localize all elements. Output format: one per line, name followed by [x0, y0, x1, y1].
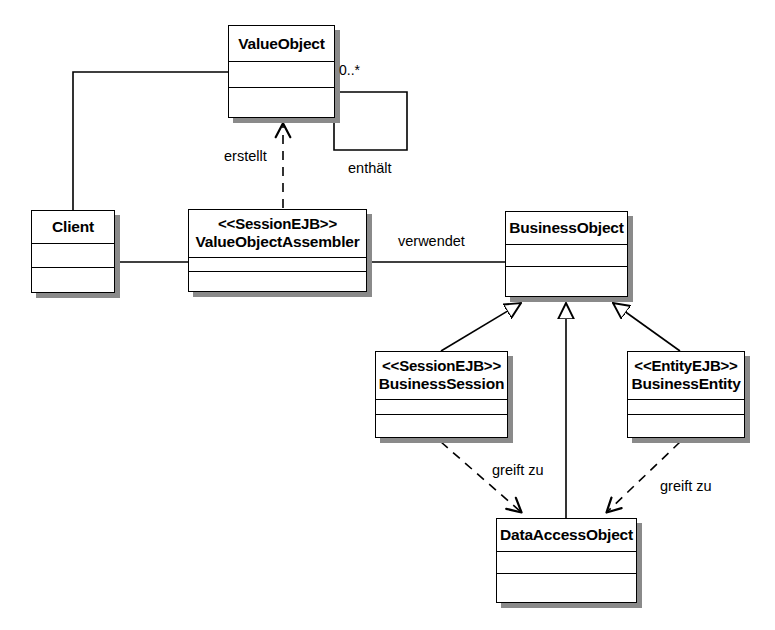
- class-box-value-object-assembler[interactable]: <<SessionEJB>> ValueObjectAssembler: [188, 209, 367, 292]
- class-attributes-business-object: [506, 245, 627, 267]
- class-name-business-object: BusinessObject: [509, 219, 623, 236]
- class-box-value-object[interactable]: ValueObject: [228, 25, 335, 118]
- class-attributes-business-entity: [628, 400, 744, 415]
- class-stereotype-business-session: <<SessionEJB>>: [382, 358, 501, 375]
- class-box-business-entity[interactable]: <<EntityEJB>> BusinessEntity: [627, 351, 745, 438]
- class-attributes-client: [32, 244, 114, 268]
- class-box-business-object[interactable]: BusinessObject: [505, 211, 628, 297]
- class-attributes-value-object: [229, 62, 334, 88]
- edge-business-entity-generalization: [613, 303, 680, 351]
- class-name-business-entity: BusinessEntity: [631, 375, 740, 392]
- class-operations-data-access-object: [497, 574, 636, 601]
- multiplicity-value-object: 0..*: [339, 62, 360, 78]
- uml-class-diagram: ValueObject Client <<SessionEJB>> ValueO…: [0, 0, 775, 630]
- class-header-business-session: <<SessionEJB>> BusinessSession: [376, 352, 507, 400]
- class-header-value-object-assembler: <<SessionEJB>> ValueObjectAssembler: [189, 210, 366, 258]
- class-header-value-object: ValueObject: [229, 26, 334, 62]
- class-operations-value-object: [229, 88, 334, 117]
- class-header-business-entity: <<EntityEJB>> BusinessEntity: [628, 352, 744, 400]
- class-operations-value-object-assembler: [189, 272, 366, 290]
- edge-client-to-value-object: [73, 72, 228, 210]
- edge-value-object-self-contains: [334, 92, 407, 150]
- class-header-business-object: BusinessObject: [506, 212, 627, 245]
- class-header-client: Client: [32, 211, 114, 244]
- edge-business-session-generalization: [441, 303, 521, 351]
- edge-label-greift-zu-session: greift zu: [492, 462, 544, 478]
- class-box-client[interactable]: Client: [31, 210, 115, 293]
- edge-label-enthaelt: enthält: [348, 160, 392, 176]
- edge-label-greift-zu-entity: greift zu: [660, 478, 712, 494]
- class-operations-business-entity: [628, 415, 744, 436]
- class-operations-business-session: [376, 415, 507, 436]
- class-box-data-access-object[interactable]: DataAccessObject: [496, 518, 637, 603]
- class-attributes-business-session: [376, 400, 507, 415]
- class-attributes-data-access-object: [497, 552, 636, 574]
- class-attributes-value-object-assembler: [189, 258, 366, 272]
- relationship-edge-layer: [0, 0, 775, 630]
- class-name-client: Client: [52, 218, 94, 235]
- edge-label-verwendet: verwendet: [398, 233, 465, 249]
- class-stereotype-value-object-assembler: <<SessionEJB>>: [218, 216, 337, 233]
- class-name-business-session: BusinessSession: [379, 375, 504, 392]
- class-operations-business-object: [506, 267, 627, 295]
- class-box-business-session[interactable]: <<SessionEJB>> BusinessSession: [375, 351, 508, 438]
- class-name-value-object: ValueObject: [238, 35, 325, 52]
- class-name-value-object-assembler: ValueObjectAssembler: [196, 233, 360, 250]
- class-header-data-access-object: DataAccessObject: [497, 519, 636, 552]
- class-operations-client: [32, 268, 114, 292]
- class-stereotype-business-entity: <<EntityEJB>>: [634, 358, 737, 375]
- edge-label-erstellt: erstellt: [224, 148, 267, 164]
- class-name-data-access-object: DataAccessObject: [500, 526, 633, 543]
- edge-business-entity-accesses-dao: [607, 442, 680, 512]
